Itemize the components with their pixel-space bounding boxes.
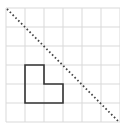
grid-diagram (0, 0, 120, 125)
diagram-canvas (0, 0, 120, 125)
grid-lines (6, 8, 120, 122)
